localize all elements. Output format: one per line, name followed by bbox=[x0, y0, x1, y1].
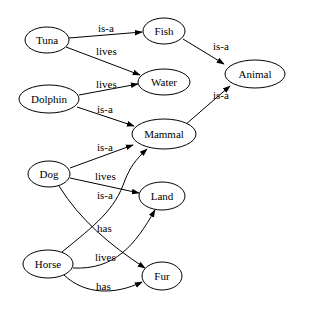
edge-tuna-water: lives bbox=[66, 45, 140, 75]
node-label-land: Land bbox=[151, 190, 174, 202]
edge-fish-animal: is-a bbox=[183, 39, 229, 64]
node-fur: Fur bbox=[142, 262, 182, 290]
node-dog: Dog bbox=[28, 161, 70, 187]
edge-label-horse-fur: has bbox=[96, 280, 111, 292]
node-label-mammal: Mammal bbox=[144, 128, 184, 140]
node-label-tuna: Tuna bbox=[36, 34, 58, 46]
edge-label-dog-fur: has bbox=[97, 222, 112, 234]
edge-dog-mammal: is-a bbox=[70, 141, 133, 168]
edge-label-horse-mammal: is-a bbox=[97, 189, 113, 201]
node-water: Water bbox=[138, 69, 190, 95]
edge-mammal-animal: is-a bbox=[185, 86, 230, 125]
node-horse: Horse bbox=[23, 250, 73, 278]
edge-dolphin-mammal: is-a bbox=[77, 103, 134, 126]
node-animal: Animal bbox=[225, 60, 285, 88]
node-label-dog: Dog bbox=[40, 168, 59, 180]
concept-graph: is-a lives lives is-a is-a is-a is-a liv… bbox=[0, 0, 316, 309]
node-label-animal: Animal bbox=[239, 68, 272, 80]
edge-label-mammal-animal: is-a bbox=[213, 89, 229, 101]
node-mammal: Mammal bbox=[132, 119, 196, 149]
node-label-dolphin: Dolphin bbox=[31, 93, 68, 105]
edge-horse-land: lives bbox=[73, 210, 155, 268]
edge-label-tuna-water: lives bbox=[96, 45, 117, 57]
node-label-fish: Fish bbox=[155, 25, 174, 37]
edge-label-dolphin-mammal: is-a bbox=[97, 103, 113, 115]
node-dolphin: Dolphin bbox=[19, 85, 79, 113]
node-label-fur: Fur bbox=[154, 270, 170, 282]
edge-label-horse-land: lives bbox=[95, 251, 116, 263]
edge-label-tuna-fish: is-a bbox=[98, 22, 114, 34]
edge-label-dog-mammal: is-a bbox=[97, 141, 113, 153]
node-label-horse: Horse bbox=[35, 258, 61, 270]
edge-tuna-fish: is-a bbox=[69, 22, 142, 38]
edge-horse-fur: has bbox=[64, 275, 142, 292]
node-tuna: Tuna bbox=[25, 27, 69, 53]
node-land: Land bbox=[139, 182, 185, 210]
node-fish: Fish bbox=[143, 18, 185, 44]
edge-label-fish-animal: is-a bbox=[213, 40, 229, 52]
edge-label-dolphin-water: lives bbox=[96, 78, 117, 90]
node-label-water: Water bbox=[151, 76, 177, 88]
edge-horse-mammal: is-a bbox=[62, 149, 147, 252]
edge-dolphin-water: lives bbox=[79, 78, 138, 95]
edge-label-dog-land: lives bbox=[95, 170, 116, 182]
